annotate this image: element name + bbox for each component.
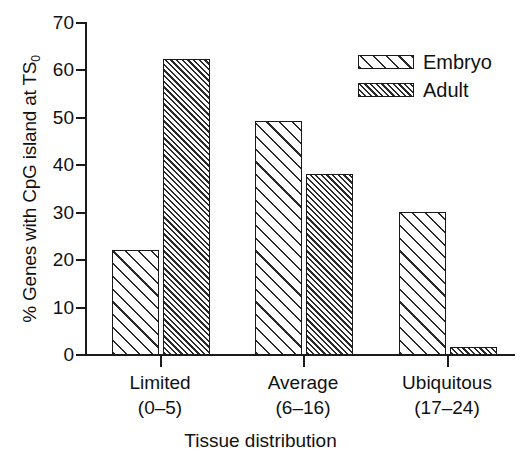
x-category-ubiquitous-name: Ubiquitous <box>362 370 521 395</box>
bar-adult-limited <box>163 59 210 355</box>
bar-adult-average <box>306 174 353 355</box>
y-tick-label-40: 40 <box>32 155 74 174</box>
x-tick-mark-limited <box>160 356 162 367</box>
y-tick-label-20: 20 <box>32 250 74 269</box>
y-tick-label-50: 50 <box>32 108 74 127</box>
bar-chart: % Genes with CpG island at TS0 70 60 50 … <box>0 0 521 464</box>
y-axis-title-text: % Genes with CpG island at TS <box>19 62 40 323</box>
bar-embryo-ubiquitous <box>399 212 446 355</box>
x-tick-mark-ubiquitous <box>447 356 449 367</box>
legend-label-adult: Adult <box>423 80 469 100</box>
bar-embryo-limited <box>112 250 159 355</box>
legend-item-adult: Adult <box>358 76 492 104</box>
x-category-ubiquitous: Ubiquitous (17–24) <box>362 370 521 420</box>
y-tick-label-0: 0 <box>32 345 74 364</box>
y-tick-label-30: 30 <box>32 203 74 222</box>
bar-adult-ubiquitous <box>450 347 497 355</box>
x-axis-title: Tissue distribution <box>0 430 521 452</box>
y-tick-label-70: 70 <box>32 13 74 32</box>
x-category-ubiquitous-range: (17–24) <box>362 395 521 420</box>
legend-swatch-adult-icon <box>358 83 414 97</box>
x-tick-mark-average <box>303 356 305 367</box>
legend-item-embryo: Embryo <box>358 48 492 76</box>
legend-label-embryo: Embryo <box>423 52 492 72</box>
legend: Embryo Adult <box>358 48 492 104</box>
y-tick-label-10: 10 <box>32 298 74 317</box>
bar-embryo-average <box>255 121 302 355</box>
y-tick-label-60: 60 <box>32 60 74 79</box>
legend-swatch-embryo-icon <box>358 55 414 69</box>
y-axis-line <box>85 22 87 356</box>
